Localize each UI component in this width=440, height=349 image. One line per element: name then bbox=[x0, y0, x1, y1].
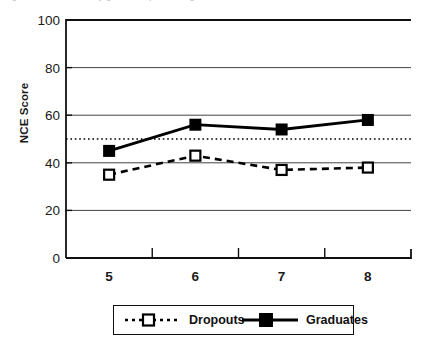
legend-swatch-dropouts bbox=[124, 313, 182, 327]
data-point-marker bbox=[363, 163, 373, 173]
data-point-marker bbox=[276, 124, 286, 134]
data-point-marker bbox=[104, 146, 114, 156]
data-point-marker bbox=[104, 170, 114, 180]
series-line bbox=[109, 120, 368, 151]
legend-label-dropouts: Dropouts bbox=[189, 313, 245, 327]
data-point-marker bbox=[363, 115, 373, 125]
chart-legend: Dropouts Graduates bbox=[113, 305, 354, 335]
legend-item-graduates: Graduates bbox=[241, 306, 368, 334]
legend-item-dropouts: Dropouts bbox=[124, 306, 245, 334]
plot-area bbox=[0, 0, 440, 349]
series-graduates bbox=[104, 115, 373, 156]
data-point-marker bbox=[277, 165, 287, 175]
legend-swatch-graduates bbox=[241, 313, 299, 327]
series-dropouts bbox=[104, 151, 373, 180]
series-line bbox=[109, 156, 368, 175]
data-point-marker bbox=[190, 120, 200, 130]
data-point-marker bbox=[190, 151, 200, 161]
legend-label-graduates: Graduates bbox=[306, 313, 368, 327]
chart-figure: Figure 3. NCE Score by grade, dropouts v… bbox=[0, 0, 440, 349]
